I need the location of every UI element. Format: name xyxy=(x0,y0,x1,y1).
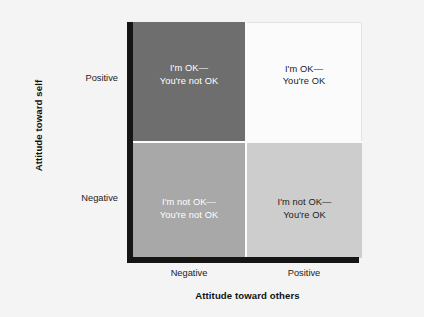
quadrant-im-not-ok-youre-not-ok: I'm not OK— You're not OK xyxy=(133,143,245,258)
quadrant-im-not-ok-youre-ok: I'm not OK— You're OK xyxy=(247,143,362,258)
y-axis-title: Attitude toward self xyxy=(33,46,44,206)
y-axis-spine xyxy=(127,22,133,263)
quadrant-im-ok-youre-ok: I'm OK— You're OK xyxy=(247,22,362,141)
figure-container: I'm OK— You're not OK I'm OK— You're OK … xyxy=(0,0,424,317)
quadrant-im-ok-youre-not-ok: I'm OK— You're not OK xyxy=(133,22,245,141)
x-axis-title: Attitude toward others xyxy=(133,290,362,301)
x-axis-tick-negative: Negative xyxy=(139,268,239,278)
quadrant-label: I'm not OK— You're not OK xyxy=(160,196,219,223)
x-axis-spine xyxy=(127,257,359,263)
quadrant-label: I'm OK— You're not OK xyxy=(160,62,219,89)
y-axis-tick-positive: Positive xyxy=(44,73,118,83)
quadrant-label: I'm OK— You're OK xyxy=(283,63,326,90)
plot-area: I'm OK— You're not OK I'm OK— You're OK … xyxy=(133,22,362,258)
quadrant-label: I'm not OK— You're OK xyxy=(277,196,331,223)
y-axis-tick-negative: Negative xyxy=(44,193,118,203)
x-axis-tick-positive: Positive xyxy=(254,268,354,278)
